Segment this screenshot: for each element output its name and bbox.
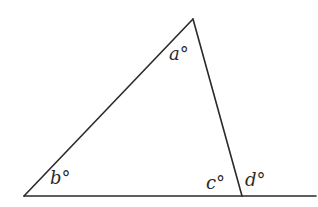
side-right xyxy=(193,19,242,196)
angle-label-d: d° xyxy=(245,169,266,190)
triangle-diagram: a° b° c° d° xyxy=(0,0,318,207)
angle-label-c: c° xyxy=(206,172,225,193)
angle-label-b: b° xyxy=(50,167,71,188)
angle-label-a: a° xyxy=(169,43,189,64)
